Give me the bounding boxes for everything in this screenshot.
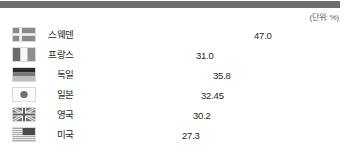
country-label: 영국 bbox=[40, 107, 74, 121]
bar-track: 32.45 bbox=[77, 88, 332, 100]
flag-france-icon bbox=[12, 47, 36, 62]
country-label: 독일 bbox=[40, 67, 74, 81]
bar-track: 27.3 bbox=[77, 128, 332, 140]
unit-caption: (단위: %) bbox=[310, 11, 340, 22]
bar-track: 47.0 bbox=[77, 28, 332, 40]
bar-value-label: 35.8 bbox=[213, 70, 231, 81]
chart-row: 영국 30.2 bbox=[0, 104, 348, 124]
chart-row: 독일 35.8 bbox=[0, 64, 348, 84]
flag-japan-icon bbox=[12, 87, 36, 102]
bar-track: 30.2 bbox=[77, 108, 332, 120]
country-label: 프랑스 bbox=[40, 47, 74, 61]
chart-row: 일본 32.45 bbox=[0, 84, 348, 104]
country-label: 스웨덴 bbox=[40, 27, 74, 41]
chart-row: 스웨덴 47.0 bbox=[0, 24, 348, 44]
bar-value-label: 32.45 bbox=[201, 90, 224, 101]
country-label: 미국 bbox=[40, 127, 74, 141]
flag-usa-icon bbox=[12, 127, 36, 142]
chart-rows: 스웨덴 47.0 프랑스 31.0 bbox=[0, 24, 348, 144]
top-rule-divider bbox=[0, 1, 340, 8]
flag-sweden-icon bbox=[12, 27, 36, 42]
chart-row: 미국 27.3 bbox=[0, 124, 348, 144]
country-label: 일본 bbox=[40, 87, 74, 101]
bar-track: 35.8 bbox=[77, 68, 332, 80]
bar-chart: (단위: %) 스웨덴 47.0 bbox=[0, 0, 348, 155]
flag-germany-icon bbox=[12, 67, 36, 82]
bar-value-label: 30.2 bbox=[193, 110, 211, 121]
chart-row: 프랑스 31.0 bbox=[0, 44, 348, 64]
flag-uk-icon bbox=[12, 107, 36, 122]
bar-track: 31.0 bbox=[77, 48, 332, 60]
bar-value-label: 27.3 bbox=[182, 130, 200, 141]
bar-value-label: 47.0 bbox=[254, 30, 272, 41]
bar-value-label: 31.0 bbox=[196, 50, 214, 61]
